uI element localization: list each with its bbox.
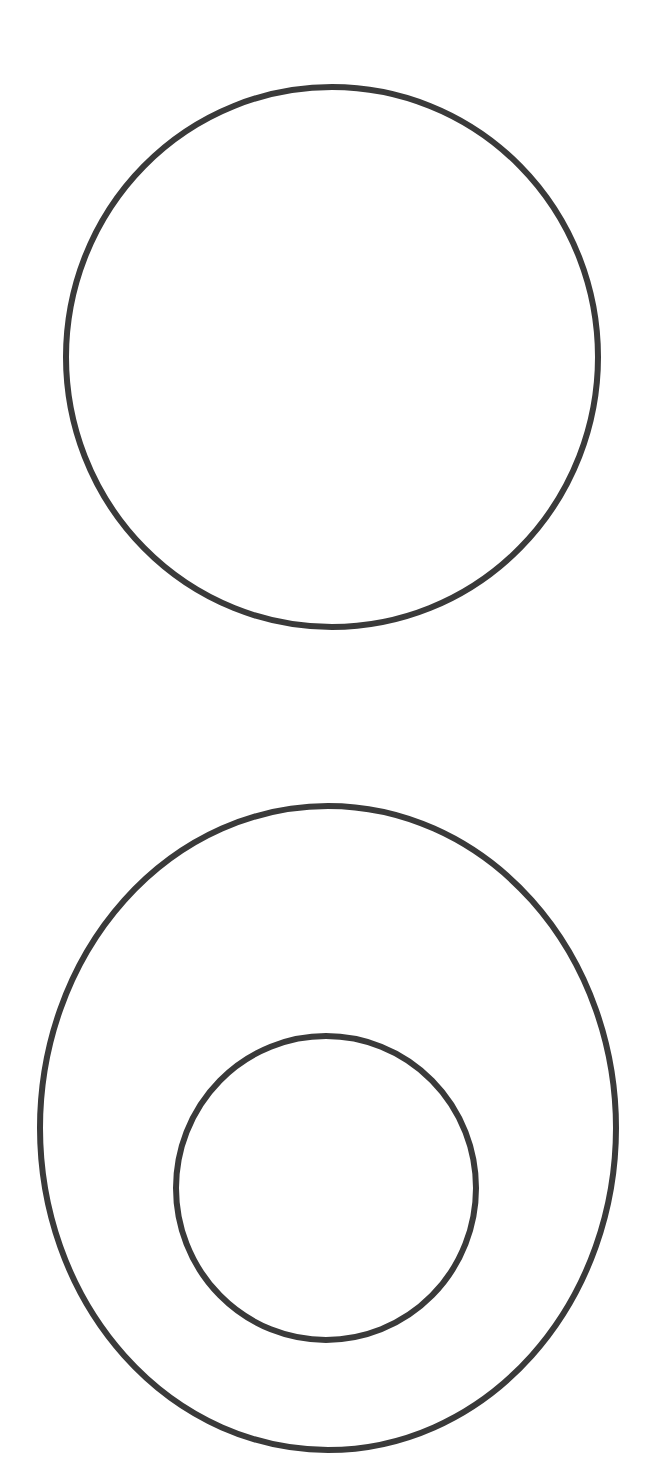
- bottom-inner-circle: [176, 1036, 476, 1340]
- circles-diagram: [0, 0, 668, 1475]
- top-circle: [66, 87, 598, 627]
- bottom-outer-circle: [40, 806, 616, 1450]
